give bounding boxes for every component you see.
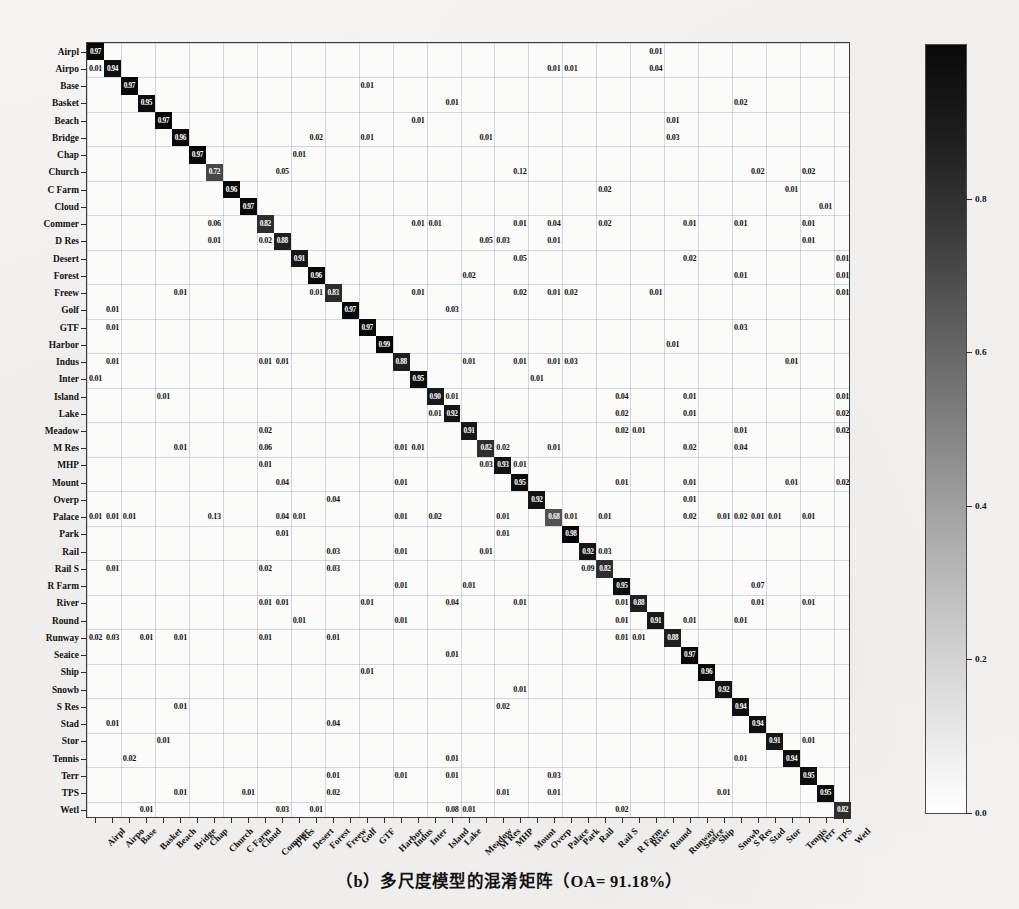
matrix-cell-value: 0.01 xyxy=(411,117,424,125)
matrix-cell-value: 0.01 xyxy=(106,358,119,366)
matrix-cell-value: 0.01 xyxy=(428,220,441,228)
matrix-cell-value: 0.82 xyxy=(837,806,848,814)
matrix-cell-value: 0.01 xyxy=(208,237,221,245)
y-axis-tick xyxy=(81,155,87,156)
matrix-cell-value: 0.01 xyxy=(513,599,526,607)
matrix-cell-value: 0.95 xyxy=(141,99,152,107)
matrix-cell-value: 0.01 xyxy=(547,289,560,297)
matrix-cell-value: 0.02 xyxy=(615,806,628,814)
matrix-cell-value: 0.01 xyxy=(361,82,374,90)
y-axis-tick xyxy=(81,690,87,691)
matrix-cell-value: 0.97 xyxy=(90,48,101,56)
matrix-cell-value: 0.98 xyxy=(565,530,576,538)
matrix-cell-value: 0.01 xyxy=(496,530,509,538)
x-axis-tick xyxy=(316,817,317,823)
matrix-cell-value: 0.02 xyxy=(259,427,272,435)
matrix-cell-value: 0.02 xyxy=(123,755,136,763)
y-axis-label: Stor xyxy=(62,736,79,746)
x-axis-tick xyxy=(622,817,623,823)
matrix-cell-value: 0.02 xyxy=(598,186,611,194)
confusion-matrix-plot: 0.970.010.010.940.010.010.040.970.010.95… xyxy=(86,42,850,818)
matrix-cell-value: 0.04 xyxy=(615,392,628,400)
matrix-cell-value: 0.04 xyxy=(734,444,747,452)
matrix-cell-value: 0.01 xyxy=(802,237,815,245)
y-axis-tick xyxy=(81,103,87,104)
matrix-cell-value: 0.07 xyxy=(751,582,764,590)
matrix-cell-value: 0.01 xyxy=(649,289,662,297)
y-axis-tick xyxy=(81,465,87,466)
y-axis-tick xyxy=(81,52,87,53)
matrix-cell-value: 0.02 xyxy=(683,513,696,521)
y-axis-tick xyxy=(81,362,87,363)
matrix-cell-value: 0.04 xyxy=(327,720,340,728)
matrix-cell-value: 0.97 xyxy=(684,651,695,659)
matrix-cells: 0.970.010.010.940.010.010.040.970.010.95… xyxy=(87,43,849,817)
matrix-cell-value: 0.01 xyxy=(836,289,849,297)
matrix-cell-value: 0.68 xyxy=(548,513,559,521)
matrix-cell-value: 0.02 xyxy=(564,289,577,297)
matrix-cell-value: 0.88 xyxy=(667,634,678,642)
matrix-cell-value: 0.01 xyxy=(242,789,255,797)
y-axis-label: Golf xyxy=(61,305,79,315)
matrix-cell-value: 0.01 xyxy=(717,513,730,521)
matrix-cell-value: 0.82 xyxy=(599,565,610,573)
x-axis-tick xyxy=(724,817,725,823)
y-axis-label: Bridge xyxy=(52,133,79,143)
y-axis-tick xyxy=(81,138,87,139)
matrix-cell-value: 0.01 xyxy=(394,479,407,487)
matrix-cell-value: 0.03 xyxy=(327,565,340,573)
matrix-cell-value: 0.94 xyxy=(752,720,763,728)
y-axis-tick xyxy=(81,397,87,398)
colorbar-tick xyxy=(966,813,972,814)
matrix-cell-value: 0.82 xyxy=(480,444,491,452)
y-axis-label: Rail S xyxy=(55,564,79,574)
matrix-cell-value: 0.01 xyxy=(106,513,119,521)
matrix-cell-value: 0.01 xyxy=(394,444,407,452)
y-axis-tick xyxy=(81,379,87,380)
matrix-cell-value: 0.01 xyxy=(615,479,628,487)
matrix-cell-value: 0.01 xyxy=(106,720,119,728)
x-axis-tick xyxy=(809,817,810,823)
y-axis-label: Overp xyxy=(53,495,79,505)
x-axis-tick xyxy=(537,817,538,823)
matrix-cell-value: 0.01 xyxy=(751,513,764,521)
matrix-cell-value: 0.01 xyxy=(140,806,153,814)
y-axis-tick xyxy=(81,534,87,535)
y-axis-tick xyxy=(81,672,87,673)
y-axis-tick xyxy=(81,276,87,277)
matrix-cell-value: 0.04 xyxy=(327,496,340,504)
y-axis-label: Forest xyxy=(54,271,79,281)
matrix-cell-value: 0.05 xyxy=(479,237,492,245)
figure-caption: （b）多尺度模型的混淆矩阵（OA= 91.18%） xyxy=(0,868,1019,892)
x-axis-tick xyxy=(350,817,351,823)
y-axis-label: TPS xyxy=(62,788,79,798)
matrix-cell-value: 0.01 xyxy=(394,513,407,521)
matrix-cell-value: 0.01 xyxy=(734,755,747,763)
colorbar-tick xyxy=(966,659,972,660)
matrix-cell-value: 0.01 xyxy=(428,410,441,418)
matrix-cell-value: 0.01 xyxy=(106,565,119,573)
matrix-cell-value: 0.94 xyxy=(107,65,118,73)
matrix-cell-value: 0.01 xyxy=(734,427,747,435)
x-axis-tick xyxy=(265,817,266,823)
x-axis-tick xyxy=(503,817,504,823)
matrix-cell-value: 0.06 xyxy=(259,444,272,452)
matrix-cell-value: 0.02 xyxy=(683,255,696,263)
y-axis-label: Stad xyxy=(61,719,79,729)
x-axis-tick xyxy=(673,817,674,823)
matrix-cell-value: 0.96 xyxy=(311,272,322,280)
x-axis-tick xyxy=(401,817,402,823)
matrix-cell-value: 0.88 xyxy=(277,237,288,245)
y-axis-label: Seaice xyxy=(54,650,79,660)
colorbar-tick-label: 0.2 xyxy=(975,654,986,664)
colorbar-tick xyxy=(966,506,972,507)
matrix-cell-value: 0.01 xyxy=(394,617,407,625)
matrix-cell-value: 0.01 xyxy=(513,461,526,469)
y-axis-label: M Res xyxy=(53,443,79,453)
y-axis-tick xyxy=(81,638,87,639)
matrix-cell-value: 0.04 xyxy=(445,599,458,607)
matrix-cell-value: 0.01 xyxy=(123,513,136,521)
x-axis-tick xyxy=(95,817,96,823)
matrix-cell-value: 0.02 xyxy=(513,289,526,297)
matrix-cell-value: 0.95 xyxy=(412,375,423,383)
